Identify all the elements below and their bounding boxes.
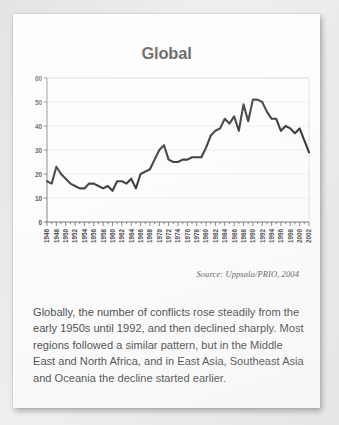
svg-text:20: 20 [35,171,43,178]
svg-text:1968: 1968 [146,229,153,244]
svg-text:2002: 2002 [305,229,312,244]
page-title: Global [13,44,320,63]
caption-paragraph: Globally, the number of conflicts rose s… [33,304,305,386]
y-axis-tick-labels: 0102030405060 [35,75,43,226]
line-chart: 0102030405060 19461948195019521954195619… [19,70,315,260]
svg-text:2000: 2000 [296,229,303,244]
svg-text:1954: 1954 [81,229,88,244]
svg-text:30: 30 [35,147,43,154]
svg-text:1984: 1984 [221,229,228,244]
data-series-line [47,100,309,191]
svg-text:1980: 1980 [202,229,209,244]
svg-text:1960: 1960 [109,229,116,244]
svg-text:1952: 1952 [71,229,78,244]
svg-text:40: 40 [35,123,43,130]
svg-text:1998: 1998 [287,229,294,244]
svg-text:1976: 1976 [184,229,191,244]
figure-card: Global 0102030405060 1946194819501952195… [13,14,320,408]
svg-text:1978: 1978 [193,229,200,244]
page-background: Global 0102030405060 1946194819501952195… [0,0,339,425]
svg-text:1950: 1950 [62,229,69,244]
svg-text:1962: 1962 [118,229,125,244]
svg-text:1970: 1970 [156,229,163,244]
svg-text:1986: 1986 [231,229,238,244]
svg-text:1974: 1974 [174,229,181,244]
x-axis-tick-labels: 1946194819501952195419561958196019621964… [43,229,312,244]
svg-text:0: 0 [38,219,42,226]
svg-text:60: 60 [35,75,43,82]
x-axis-ticks [47,222,309,226]
svg-text:1964: 1964 [128,229,135,244]
svg-text:1990: 1990 [249,229,256,244]
svg-text:1982: 1982 [212,229,219,244]
svg-text:1958: 1958 [100,229,107,244]
source-attribution: Source: Uppsala/PRIO, 2004 [196,269,299,279]
svg-text:50: 50 [35,99,43,106]
svg-text:1956: 1956 [90,229,97,244]
svg-text:1946: 1946 [43,229,50,244]
svg-text:1972: 1972 [165,229,172,244]
svg-text:10: 10 [35,195,43,202]
svg-text:1992: 1992 [259,229,266,244]
svg-text:1996: 1996 [277,229,284,244]
svg-text:1988: 1988 [240,229,247,244]
svg-text:1994: 1994 [268,229,275,244]
caption-text: Globally, the number of conflicts rose s… [33,304,305,386]
svg-text:1966: 1966 [137,229,144,244]
chart-canvas: 0102030405060 19461948195019521954195619… [19,70,315,260]
svg-text:1948: 1948 [53,229,60,244]
plot-gridlines [47,78,309,222]
